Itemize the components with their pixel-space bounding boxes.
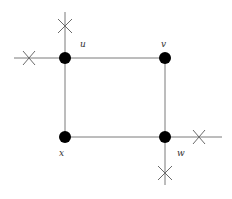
graph-diagram: u v x w xyxy=(0,0,232,199)
label-u: u xyxy=(80,39,86,49)
label-w: w xyxy=(177,148,185,158)
label-x: x xyxy=(59,148,64,158)
node-x xyxy=(59,131,71,143)
node-u xyxy=(59,52,71,64)
node-w xyxy=(159,131,171,143)
label-v: v xyxy=(161,39,166,49)
node-v xyxy=(159,52,171,64)
